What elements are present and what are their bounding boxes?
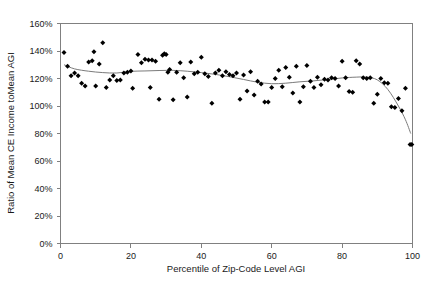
data-point-marker — [171, 97, 176, 102]
y-tick-label: 80% — [34, 129, 52, 139]
data-point-marker — [315, 75, 320, 80]
data-point-marker — [311, 85, 316, 90]
data-point-marker — [378, 76, 383, 81]
data-point-marker — [65, 64, 70, 69]
data-point-marker — [340, 59, 345, 64]
data-point-marker — [111, 73, 116, 78]
trend-line — [64, 65, 411, 134]
scatter-markers — [62, 40, 415, 147]
data-point-marker — [199, 55, 204, 60]
data-point-marker — [403, 86, 408, 91]
data-point-marker — [209, 101, 214, 106]
data-point-marker — [371, 101, 376, 106]
data-point-marker — [290, 90, 295, 95]
data-point-marker — [350, 90, 355, 95]
data-point-marker — [343, 75, 348, 80]
x-tick-label: 80 — [337, 251, 347, 261]
data-point-marker — [223, 69, 228, 74]
data-point-marker — [245, 88, 250, 93]
y-tick-label: 0% — [39, 239, 52, 249]
data-point-marker — [130, 86, 135, 91]
data-point-marker — [308, 79, 313, 84]
data-point-marker — [248, 69, 253, 74]
data-point-marker — [185, 95, 190, 100]
data-point-marker — [333, 76, 338, 81]
data-point-marker — [157, 97, 162, 102]
data-series-layer — [62, 40, 415, 147]
data-point-marker — [238, 97, 243, 102]
data-point-marker — [354, 58, 359, 63]
data-point-marker — [118, 77, 123, 82]
data-point-marker — [216, 68, 221, 73]
data-point-marker — [72, 71, 77, 76]
data-point-marker — [280, 84, 285, 89]
data-point-marker — [97, 62, 102, 67]
data-point-marker — [375, 92, 380, 97]
data-point-marker — [297, 99, 302, 104]
data-point-marker — [62, 50, 67, 55]
data-point-marker — [385, 81, 390, 86]
data-point-marker — [266, 99, 271, 104]
data-point-marker — [206, 74, 211, 79]
data-point-marker — [294, 64, 299, 69]
x-tick-label: 100 — [405, 251, 420, 261]
y-tick-label: 100% — [29, 101, 52, 111]
data-point-marker — [304, 63, 309, 68]
data-point-marker — [255, 79, 260, 84]
data-point-marker — [148, 85, 153, 90]
x-tick-label: 40 — [196, 251, 206, 261]
data-point-marker — [287, 75, 292, 80]
data-point-marker — [357, 62, 362, 67]
data-point-marker — [396, 96, 401, 101]
y-tick-label: 40% — [34, 184, 52, 194]
data-point-marker — [336, 84, 341, 89]
data-point-marker — [93, 84, 98, 89]
data-point-marker — [76, 73, 81, 78]
data-point-marker — [69, 73, 74, 78]
y-tick-label: 60% — [34, 156, 52, 166]
data-point-marker — [220, 73, 225, 78]
x-axis-title: Percentile of Zip-Code Level AGI — [167, 263, 305, 274]
plot-frame — [61, 24, 413, 244]
plot-border — [61, 24, 413, 244]
y-tick-label: 20% — [34, 211, 52, 221]
x-tick-label: 60 — [267, 251, 277, 261]
data-point-marker — [276, 68, 281, 73]
data-point-marker — [83, 84, 88, 89]
y-axis-title: Ratio of Mean CE Income toMean AGI — [5, 52, 16, 214]
y-tick-label: 140% — [29, 46, 52, 56]
x-tick-label: 20 — [126, 251, 136, 261]
data-point-marker — [252, 93, 257, 98]
data-point-marker — [181, 75, 186, 80]
data-point-marker — [269, 85, 274, 90]
data-point-marker — [202, 71, 207, 76]
data-point-marker — [318, 82, 323, 87]
data-point-marker — [283, 65, 288, 70]
data-point-marker — [273, 76, 278, 81]
data-point-marker — [107, 77, 112, 82]
data-point-marker — [178, 60, 183, 65]
data-point-marker — [135, 52, 140, 57]
x-tick-label: 0 — [58, 251, 63, 261]
data-point-marker — [100, 40, 105, 45]
y-axis-ticks: 0%20%40%60%80%100%120%140%160% — [29, 19, 60, 249]
data-point-marker — [301, 84, 306, 89]
chart-canvas: 0%20%40%60%80%100%120%140%160% 020406080… — [0, 0, 432, 285]
data-point-marker — [241, 73, 246, 78]
x-axis-ticks: 020406080100 — [58, 244, 420, 261]
data-point-marker — [91, 49, 96, 54]
y-tick-label: 120% — [29, 74, 52, 84]
data-point-marker — [79, 81, 84, 86]
data-point-marker — [188, 60, 193, 65]
data-point-marker — [392, 105, 397, 110]
data-point-marker — [234, 71, 239, 76]
data-point-marker — [139, 60, 144, 65]
data-point-marker — [104, 85, 109, 90]
y-tick-label: 160% — [29, 19, 52, 29]
scatter-chart: 0%20%40%60%80%100%120%140%160% 020406080… — [0, 0, 432, 285]
data-point-marker — [368, 75, 373, 80]
